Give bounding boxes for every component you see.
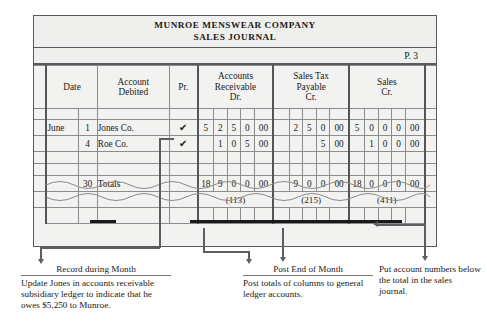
leader-ar-entry-vertical [159,138,161,248]
annotation-post-end-of-month: Post End of Month Post totals of columns… [243,264,373,300]
annotation-body: Update Jones in accounts receivable subs… [21,278,171,312]
day-total-double-rule [90,220,116,223]
sales-journal-table: MUNROE MENSWEAR COMPANY SALES JOURNAL P.… [33,15,437,247]
annotation-body: Put account numbers below the total in t… [379,264,482,298]
annotation-heading: Record during Month [21,264,171,276]
sales-journal-figure: MUNROE MENSWEAR COMPANY SALES JOURNAL P.… [0,0,487,329]
leader-stp-arrowhead-icon [280,257,286,262]
leader-stp-acct-vertical [282,228,284,259]
leader-ar-acct-horizontal [203,251,249,253]
leader-sales-arrowhead-icon [373,221,378,227]
annotation-body: Post totals of columns to general ledger… [243,278,373,300]
totals-double-rule [190,220,402,223]
leader-ar-entry-horizontal [160,138,174,140]
annotation-put-account-numbers: Put account numbers below the total in t… [379,264,482,298]
leader-ar-acct-vertical [203,228,205,252]
annotation-heading: Post End of Month [243,264,373,276]
leader-sales-acct-horizontal [378,224,426,226]
leader-sales-acct-vertical [424,224,426,258]
leader-rightnote-arrowhead-icon [422,256,428,261]
leader-note1-horizontal [40,247,160,249]
torn-page-waves [34,16,438,248]
annotation-record-during-month: Record during Month Update Jones in acco… [21,264,171,312]
